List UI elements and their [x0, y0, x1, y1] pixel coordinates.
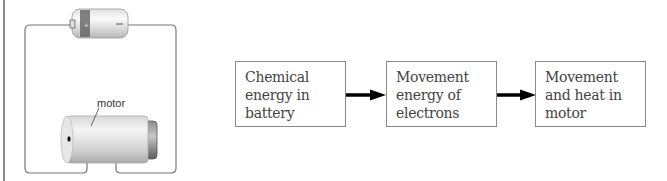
box-text-line: energy in [245, 86, 345, 104]
battery-icon: + [70, 9, 128, 38]
motor-label: motor [97, 97, 125, 109]
box-text-line: and heat in [545, 86, 645, 104]
flow-box-chemical-energy: Chemical energy in battery [235, 61, 346, 127]
arrow-right-icon [346, 89, 386, 101]
box-text-line: battery [245, 104, 345, 122]
flow-box-movement-heat: Movement and heat in motor [535, 61, 646, 127]
circuit-diagram: + [0, 0, 200, 181]
box-text-line: energy of [396, 86, 496, 104]
motor-icon [61, 108, 157, 163]
box-text-line: electrons [396, 104, 496, 122]
flow-box-movement-energy: Movement energy of electrons [386, 61, 497, 127]
box-text-line: motor [545, 104, 645, 122]
box-text-line: Movement [396, 68, 496, 86]
box-text-line: Chemical [245, 68, 345, 86]
battery-positive-symbol: + [84, 21, 89, 30]
box-text-line: Movement [545, 68, 645, 86]
arrow-right-icon [497, 89, 536, 101]
